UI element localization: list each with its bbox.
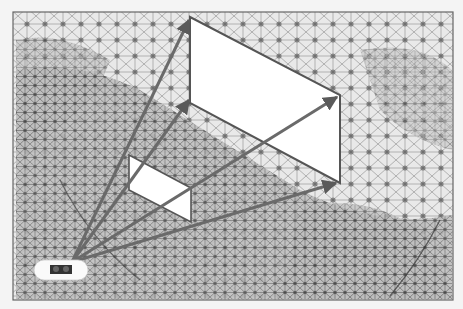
figure-canvas	[0, 0, 463, 309]
camera-icon	[34, 260, 88, 280]
